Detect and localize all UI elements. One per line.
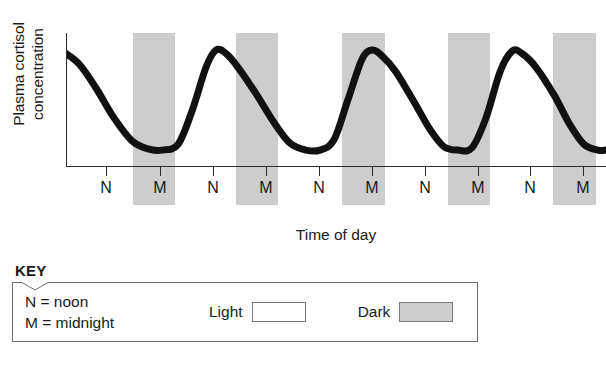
x-tick-8	[478, 167, 479, 176]
key-dark-label: Dark	[358, 303, 391, 321]
key-noon-definition: N = noon	[25, 291, 193, 312]
x-tick-label-9: N	[515, 178, 545, 197]
key-dark-swatch	[399, 302, 453, 322]
y-axis-line	[66, 33, 67, 167]
key-box: N = noon M = midnight Light Dark	[12, 282, 478, 342]
x-tick-label-10: M	[568, 178, 598, 197]
x-tick-6	[372, 167, 373, 176]
key-legend: KEY N = noon M = midnight Light Dark	[12, 262, 482, 342]
x-tick-label-3: N	[198, 178, 228, 197]
x-tick-10	[583, 167, 584, 176]
x-tick-5	[319, 167, 320, 176]
cortisol-curve	[66, 33, 606, 167]
x-tick-label-5: N	[304, 178, 334, 197]
x-tick-3	[213, 167, 214, 176]
y-axis-title: Plasma cortisol concentration	[5, 0, 51, 149]
x-tick-9	[530, 167, 531, 176]
x-tick-label-2: M	[145, 178, 175, 197]
key-light-label: Light	[209, 303, 243, 321]
x-axis-title: Time of day	[66, 226, 606, 244]
y-axis-title-line-1: Plasma cortisol	[9, 22, 28, 126]
x-tick-4	[266, 167, 267, 176]
x-tick-label-6: M	[357, 178, 387, 197]
key-title: KEY	[15, 262, 482, 279]
key-light-swatch	[252, 302, 306, 322]
key-light-entry: Light	[209, 302, 306, 322]
plot-area	[66, 33, 606, 167]
chart-figure: Plasma cortisol concentration N M N M N …	[0, 0, 606, 255]
x-tick-7	[425, 167, 426, 176]
x-axis-line	[66, 166, 606, 167]
cortisol-curve-path	[66, 49, 606, 151]
y-axis-title-line-2: concentration	[28, 28, 47, 120]
x-tick-label-1: N	[91, 178, 121, 197]
x-tick-label-8: M	[463, 178, 493, 197]
x-tick-1	[106, 167, 107, 176]
key-dark-entry: Dark	[358, 302, 454, 322]
key-definitions: N = noon M = midnight	[25, 291, 193, 333]
x-tick-label-7: N	[410, 178, 440, 197]
x-tick-2	[160, 167, 161, 176]
x-tick-label-4: M	[251, 178, 281, 197]
key-midnight-definition: M = midnight	[25, 312, 193, 333]
